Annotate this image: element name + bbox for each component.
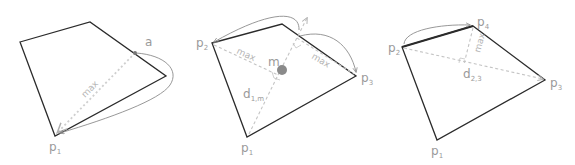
edge-p2-p4: [402, 26, 473, 47]
label-max: max: [79, 78, 100, 99]
label-p2: p2: [196, 36, 208, 52]
label-max-left: max: [235, 46, 258, 64]
label-d23: d2,3: [463, 67, 482, 83]
label-p4: p4: [477, 15, 490, 31]
label-p3: p3: [361, 71, 373, 87]
label-m: m: [268, 55, 280, 69]
label-max: max: [472, 31, 487, 53]
panel-3: p2 p4 p3 p1 d2,3 max: [388, 15, 562, 160]
max-diagonal-line: [58, 53, 135, 132]
panel-1: a p1 max: [20, 22, 173, 156]
label-p1: p1: [241, 141, 253, 157]
label-p1: p1: [431, 144, 443, 160]
quadrilateral-2: [212, 24, 356, 137]
label-d1m: d1,m: [243, 87, 264, 103]
label-p1: p1: [49, 140, 61, 156]
d1m-line: [249, 75, 278, 134]
label-p2: p2: [388, 41, 400, 57]
label-p3: p3: [550, 76, 562, 92]
diagram-canvas: a p1 max p2 p3 p1 m d1: [0, 0, 575, 165]
label-a: a: [145, 35, 152, 49]
panel-2: p2 p3 p1 m d1,m max max: [196, 16, 373, 157]
label-max-right: max: [310, 51, 333, 70]
rotation-arrow-left: [214, 16, 299, 42]
rotation-arrow: [404, 25, 470, 44]
max-line: [464, 28, 473, 64]
rotation-arrow-curve: [60, 53, 173, 133]
